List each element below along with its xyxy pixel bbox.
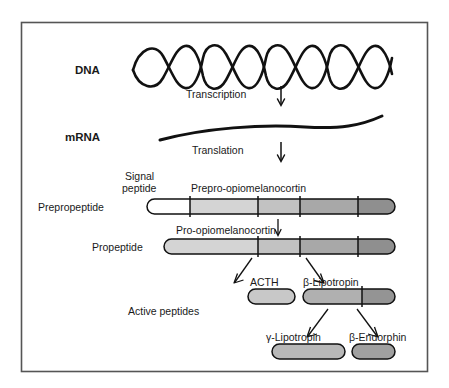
beta-lipotropin-segment-gamma-lipotropin [303, 289, 362, 304]
active-peptides-label: Active peptides [128, 305, 199, 317]
prepro-opiomelanocortin-label: Prepro-opiomelanocortin [191, 182, 306, 194]
propeptide-bar [164, 236, 395, 257]
propeptide-segment-beta-endorphin [358, 239, 395, 254]
gamma-lipotropin-bar [272, 344, 345, 359]
prepropeptide-segment-gamma-lipotropin [300, 199, 358, 214]
prepropeptide-segment-beta-lipotropin [258, 199, 300, 214]
beta-lipotropin-label: β-Lipotropin [303, 276, 359, 288]
gamma-lipotropin-label: γ-Lipotropin [266, 331, 321, 343]
propeptide-label: Propeptide [92, 241, 143, 253]
acth-bar-shape [248, 289, 295, 304]
prepropeptide-segment-beta-endorphin [358, 199, 395, 214]
propeptide-segment-acth-region [164, 239, 258, 254]
beta-endorphin-label: β-Endorphin [349, 331, 407, 343]
pomc-processing-diagram: DNA Transcription mRNA Translation Signa… [0, 0, 449, 388]
prepropeptide-segment-signal-peptide [147, 199, 190, 214]
prepropeptide-label: Prepropeptide [38, 201, 104, 213]
translation-label: Translation [192, 144, 244, 156]
beta-lipotropin-bar [303, 286, 395, 307]
mrna-label: mRNA [65, 131, 100, 143]
transcription-label: Transcription [186, 88, 246, 100]
dna-label: DNA [75, 64, 100, 76]
prepropeptide-bar [147, 196, 395, 217]
pro-opiomelanocortin-label: Pro-opiomelanocortin [176, 224, 276, 236]
canvas-background [0, 0, 449, 388]
beta-endorphin-bar [352, 344, 395, 359]
acth-bar [248, 289, 295, 304]
signal-peptide-label-line2: peptide [122, 182, 157, 194]
prepropeptide-segment-acth-region [190, 199, 258, 214]
propeptide-segment-beta-lipotropin [258, 239, 300, 254]
propeptide-segment-gamma-lipotropin [300, 239, 358, 254]
signal-peptide-label-line1: Signal [125, 170, 154, 182]
beta-lipotropin-segment-beta-endorphin [362, 289, 395, 304]
diagram-canvas: DNA Transcription mRNA Translation Signa… [0, 0, 449, 388]
acth-label: ACTH [250, 276, 279, 288]
